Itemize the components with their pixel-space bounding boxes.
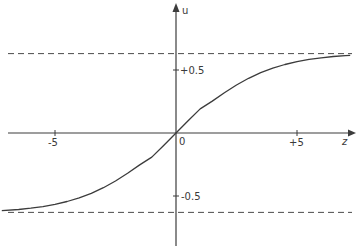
chart-plot-area bbox=[0, 0, 360, 252]
x-tick-label-pos5: +5 bbox=[289, 138, 304, 148]
x-tick-label-neg5: -5 bbox=[48, 138, 58, 148]
x-axis-arrow-icon bbox=[348, 130, 356, 137]
y-tick-label-pos05: +0.5 bbox=[180, 66, 204, 76]
y-axis-label: u bbox=[182, 6, 188, 16]
origin-label: 0 bbox=[179, 137, 185, 147]
y-axis-arrow-icon bbox=[173, 3, 180, 12]
x-axis-label: z bbox=[342, 137, 347, 147]
y-tick-label-neg05: -0.5 bbox=[181, 192, 201, 202]
